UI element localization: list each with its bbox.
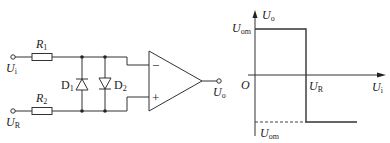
threshold-label: UR [309, 79, 324, 94]
diode-d1-label: D1 [61, 78, 74, 93]
diagram-canvas: Ui R1 UR R2 D1 [0, 0, 390, 143]
resistor-r2 [32, 108, 52, 115]
diode-d2-label: D2 [114, 78, 127, 93]
output-terminal-label: Uo [213, 85, 226, 100]
comparator-circuit: Ui R1 UR R2 D1 [6, 37, 226, 130]
y-axis-arrow-icon [253, 10, 258, 18]
reference-terminal-label: UR [6, 115, 21, 130]
diode-d1 [76, 57, 88, 111]
resistor-r1 [32, 54, 52, 61]
opamp-noninverting-sign: + [152, 90, 159, 105]
resistor-r2-label: R2 [35, 91, 47, 106]
transfer-characteristic-graph: Uo Ui O Uom UR Uom [232, 8, 386, 141]
x-axis-label: Ui [372, 80, 384, 95]
input-terminal-label: Ui [6, 61, 18, 76]
low-level-label: Uom [260, 126, 280, 141]
output-terminal [217, 79, 221, 83]
x-axis-arrow-icon [377, 73, 386, 78]
origin-label: O [241, 78, 250, 92]
y-axis-label: Uo [262, 8, 275, 23]
input-terminal [11, 55, 15, 59]
high-level-label: Uom [232, 21, 252, 36]
resistor-r1-label: R1 [35, 37, 47, 52]
opamp-inverting-sign: − [152, 58, 159, 73]
reference-terminal [11, 109, 15, 113]
diode-d2 [99, 57, 111, 111]
